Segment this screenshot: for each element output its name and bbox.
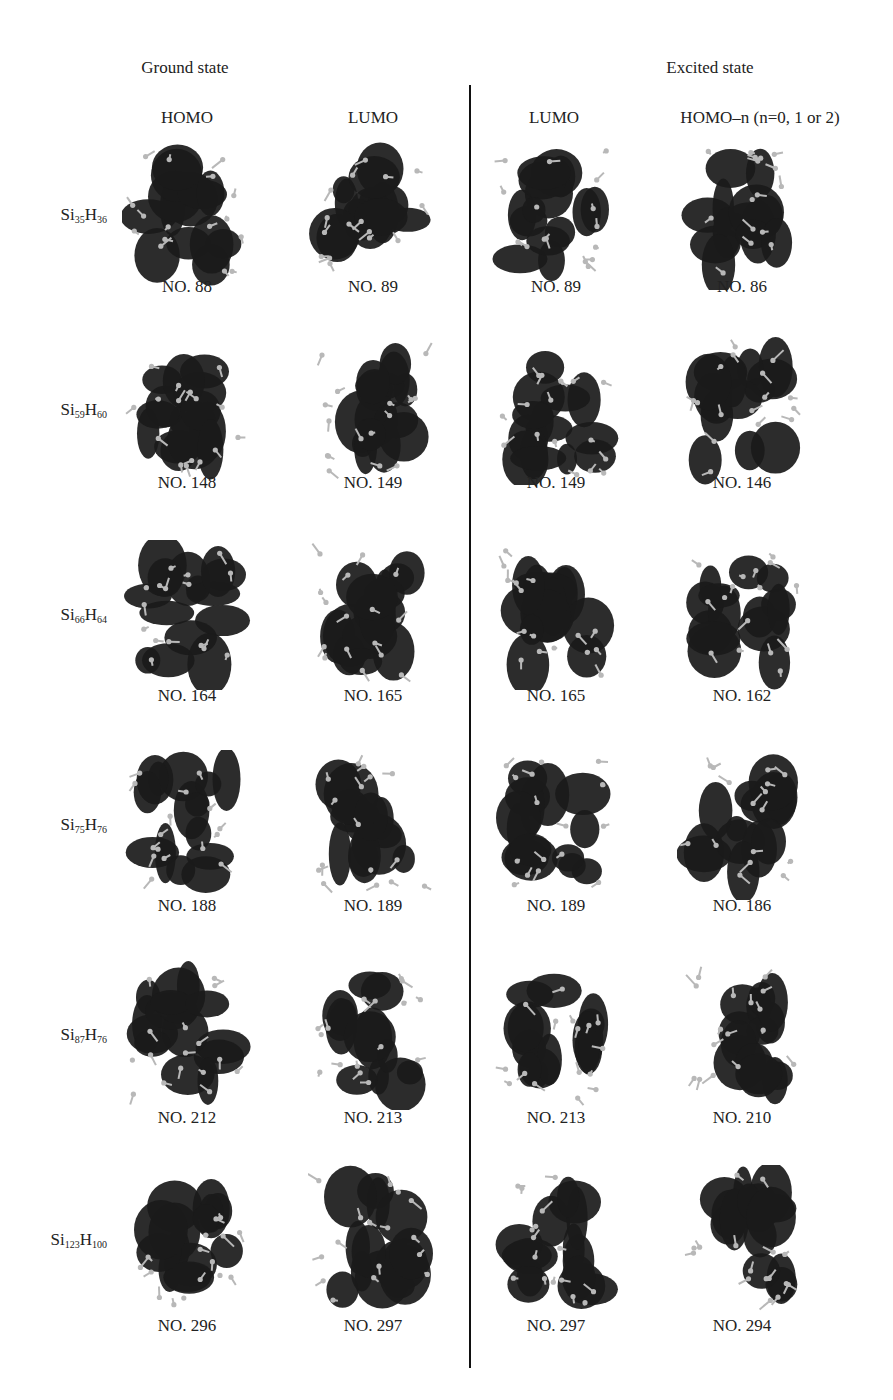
orbital-isosurface-icon [308,960,438,1110]
orbital-number-label: NO. 86 [717,277,767,297]
si-count: 75 [75,824,85,835]
orbital-isosurface-icon [308,1165,438,1315]
orbital-isosurface-icon [677,540,807,690]
orbital-number-label: NO. 213 [344,1108,403,1128]
element-si: Si [61,205,75,224]
orbital-number-label: NO. 146 [713,473,772,493]
orbital-image [122,750,252,900]
orbital-isosurface-icon [122,750,252,900]
orbital-number-label: NO. 210 [713,1108,772,1128]
orbital-number-label: NO. 188 [158,896,217,916]
orbital-isosurface-icon [677,960,807,1110]
orbital-isosurface-icon [308,335,438,485]
orbital-image [677,335,807,485]
orbital-isosurface-icon [122,140,252,290]
orbital-image [308,540,438,690]
orbital-number-label: NO. 296 [158,1316,217,1336]
orbital-number-label: NO. 148 [158,473,217,493]
element-h: H [85,815,97,834]
element-si: Si [61,400,75,419]
cluster-formula: Si66H64 [61,605,107,625]
orbital-number-label: NO. 88 [162,277,212,297]
element-h: H [85,1025,97,1044]
orbital-image [491,750,621,900]
orbital-image [677,750,807,900]
orbital-image [491,335,621,485]
h-count: 76 [97,1034,107,1045]
orbital-number-label: NO. 89 [348,277,398,297]
orbital-number-label: NO. 165 [344,686,403,706]
element-h: H [85,605,97,624]
ground-state-header: Ground state [141,58,228,78]
h-count: 64 [97,614,107,625]
column-header: LUMO [348,108,398,128]
orbital-isosurface-icon [308,750,438,900]
orbital-isosurface-icon [677,335,807,485]
si-count: 123 [65,1239,80,1250]
si-count: 35 [75,214,85,225]
orbital-image [308,750,438,900]
orbital-number-label: NO. 89 [531,277,581,297]
orbital-number-label: NO. 213 [527,1108,586,1128]
orbital-number-label: NO. 165 [527,686,586,706]
orbital-number-label: NO. 162 [713,686,772,706]
cluster-formula: Si35H36 [61,205,107,225]
orbital-isosurface-icon [491,960,621,1110]
orbital-isosurface-icon [677,140,807,290]
orbital-image [677,140,807,290]
orbital-isosurface-icon [491,750,621,900]
orbital-isosurface-icon [677,750,807,900]
orbital-number-label: NO. 164 [158,686,217,706]
cluster-formula: Si123H100 [51,1230,107,1250]
orbital-image [308,960,438,1110]
column-header: HOMO [161,108,213,128]
orbital-isosurface-icon [122,1165,252,1315]
si-count: 59 [75,409,85,420]
orbital-isosurface-icon [677,1165,807,1315]
orbital-isosurface-icon [122,960,252,1110]
orbital-image [122,540,252,690]
h-count: 36 [97,214,107,225]
orbital-image [308,140,438,290]
cluster-formula: Si87H76 [61,1025,107,1045]
orbital-isosurface-icon [491,140,621,290]
orbital-image [491,540,621,690]
h-count: 76 [97,824,107,835]
orbital-number-label: NO. 149 [527,473,586,493]
element-h: H [85,205,97,224]
element-si: Si [61,815,75,834]
orbital-image [308,1165,438,1315]
element-si: Si [51,1230,65,1249]
element-h: H [80,1230,92,1249]
orbital-image [122,960,252,1110]
orbital-number-label: NO. 297 [344,1316,403,1336]
orbital-isosurface-icon [122,335,252,485]
orbital-image [677,1165,807,1315]
orbital-number-label: NO. 297 [527,1316,586,1336]
orbital-image [491,1165,621,1315]
h-count: 100 [92,1239,107,1250]
orbital-isosurface-icon [122,540,252,690]
cluster-formula: Si75H76 [61,815,107,835]
orbital-isosurface-icon [308,140,438,290]
cluster-formula: Si59H60 [61,400,107,420]
element-h: H [85,400,97,419]
orbital-image [122,335,252,485]
orbital-number-label: NO. 294 [713,1316,772,1336]
orbital-image [491,960,621,1110]
orbital-number-label: NO. 186 [713,896,772,916]
element-si: Si [61,1025,75,1044]
orbital-image [122,140,252,290]
orbital-isosurface-icon [491,540,621,690]
orbital-image [677,960,807,1110]
h-count: 60 [97,409,107,420]
element-si: Si [61,605,75,624]
orbital-image [308,335,438,485]
orbital-image [122,1165,252,1315]
orbital-number-label: NO. 189 [527,896,586,916]
orbital-number-label: NO. 212 [158,1108,217,1128]
column-header: HOMO–n (n=0, 1 or 2) [680,108,839,128]
orbital-number-label: NO. 189 [344,896,403,916]
orbital-number-label: NO. 149 [344,473,403,493]
excited-state-header: Excited state [666,58,753,78]
